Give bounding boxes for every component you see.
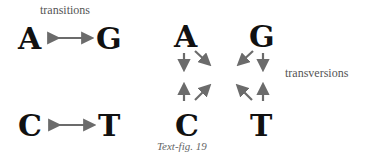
arrows-layer bbox=[0, 0, 368, 159]
arrow-c-diag bbox=[195, 86, 209, 100]
arrow-t-diag bbox=[238, 86, 252, 100]
arrow-g-diag bbox=[239, 51, 253, 64]
arrow-a-diag bbox=[195, 51, 209, 64]
